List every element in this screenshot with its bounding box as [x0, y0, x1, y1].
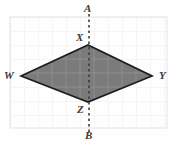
geometry-diagram: A X W Y Z B: [0, 0, 176, 150]
vertex-label-Y: Y: [159, 70, 166, 81]
vertex-label-B: B: [85, 130, 92, 141]
vertex-label-X: X: [76, 32, 83, 43]
vertex-label-A: A: [84, 3, 91, 14]
vertex-label-Z: Z: [77, 104, 84, 115]
vertex-label-W: W: [4, 70, 14, 81]
diagram-canvas: [0, 0, 176, 150]
